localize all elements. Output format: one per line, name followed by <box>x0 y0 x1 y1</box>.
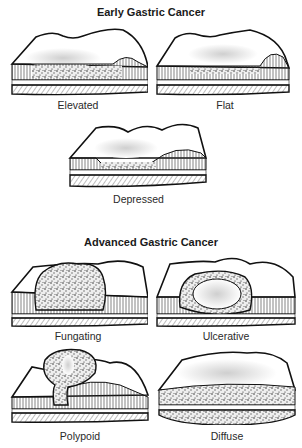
section-title-advanced: Advanced Gastric Cancer <box>0 236 302 248</box>
panel-elevated <box>8 22 148 97</box>
label-depressed: Depressed <box>66 193 211 205</box>
label-fungating: Fungating <box>8 330 148 342</box>
label-polypoid: Polypoid <box>10 430 150 442</box>
label-ulcerative: Ulcerative <box>155 330 297 342</box>
panel-depressed <box>66 118 211 190</box>
diffuse-illustration <box>157 345 297 425</box>
section-title-early: Early Gastric Cancer <box>0 6 302 18</box>
polypoid-illustration <box>10 345 150 425</box>
flat-illustration <box>155 22 295 97</box>
label-flat: Flat <box>155 99 295 111</box>
panel-polypoid <box>10 345 150 425</box>
depressed-illustration <box>66 118 211 190</box>
fungating-illustration <box>8 252 148 327</box>
ulcerative-illustration <box>155 252 297 327</box>
panel-ulcerative <box>155 252 297 327</box>
label-elevated: Elevated <box>8 99 148 111</box>
panel-flat <box>155 22 295 97</box>
elevated-illustration <box>8 22 148 97</box>
panel-fungating <box>8 252 148 327</box>
label-diffuse: Diffuse <box>157 430 297 442</box>
panel-diffuse <box>157 345 297 425</box>
